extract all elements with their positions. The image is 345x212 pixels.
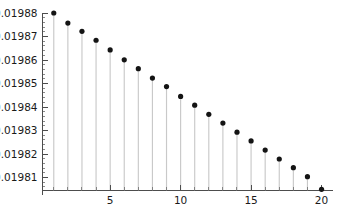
x-tick-label: 20 (315, 194, 328, 206)
y-tick-label: 0.01987 (0, 30, 38, 42)
data-point-marker (220, 120, 225, 125)
y-tick-label: 0.01988 (0, 7, 38, 19)
y-tick-label: 0.01986 (0, 54, 38, 66)
data-point-marker (65, 21, 70, 26)
data-point-marker (178, 94, 183, 99)
data-point-marker (108, 47, 113, 52)
data-point-marker (150, 76, 155, 81)
data-point-marker (248, 138, 253, 143)
markers-group (51, 10, 324, 192)
data-point-marker (136, 66, 141, 71)
data-point-marker (305, 174, 310, 179)
x-tick-label: 5 (107, 194, 114, 206)
plot-canvas: 0.019810.019820.019830.019840.019850.019… (0, 0, 345, 212)
data-point-marker (51, 10, 56, 15)
x-tick-label: 15 (244, 194, 257, 206)
data-point-marker (206, 112, 211, 117)
y-tick-label: 0.01984 (0, 101, 38, 113)
y-tick-label: 0.01983 (0, 124, 38, 136)
data-point-marker (319, 187, 324, 192)
data-point-marker (291, 165, 296, 170)
x-tick-label: 10 (174, 194, 187, 206)
y-tick-label: 0.01985 (0, 77, 38, 89)
data-point-marker (192, 103, 197, 108)
data-point-marker (93, 38, 98, 43)
data-point-marker (122, 57, 127, 62)
y-tick-label: 0.01982 (0, 148, 38, 160)
data-point-marker (164, 84, 169, 89)
data-point-marker (277, 156, 282, 161)
discrete-stem-plot: 0.019810.019820.019830.019840.019850.019… (0, 0, 345, 212)
data-point-marker (234, 130, 239, 135)
data-point-marker (263, 147, 268, 152)
data-point-marker (79, 29, 84, 34)
axes-group (43, 13, 334, 195)
y-tick-label: 0.01981 (0, 171, 38, 183)
